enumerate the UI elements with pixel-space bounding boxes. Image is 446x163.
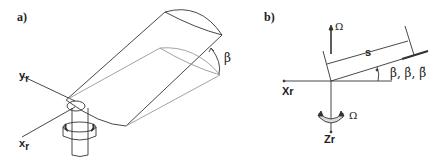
diagram-canvas	[0, 0, 446, 163]
zr-label: Zr	[324, 134, 335, 145]
x-axis-subscript: r	[25, 141, 29, 152]
wing-tip-outline	[165, 10, 222, 35]
root-ellipse	[67, 101, 85, 111]
y-axis-line	[22, 76, 75, 101]
panel-a-label: a)	[17, 11, 27, 23]
y-axis-subscript: r	[25, 73, 29, 84]
omega-rotation-label: Ω	[349, 111, 357, 121]
wing-edges	[66, 12, 222, 126]
beta-derivatives-label: β, β̇, β̈	[390, 67, 426, 79]
span-label: s	[365, 47, 371, 58]
x-axis-label: xr	[19, 138, 29, 152]
omega-top-label: Ω	[335, 22, 343, 32]
collar	[63, 127, 96, 140]
panel-b-label: b)	[264, 11, 275, 23]
panel-a-drawing	[22, 10, 222, 157]
x-axis-line	[22, 107, 75, 137]
beta-label-a: β	[224, 52, 231, 64]
y-axis-label: yr	[19, 70, 29, 84]
xr-label: Xr	[282, 86, 294, 97]
